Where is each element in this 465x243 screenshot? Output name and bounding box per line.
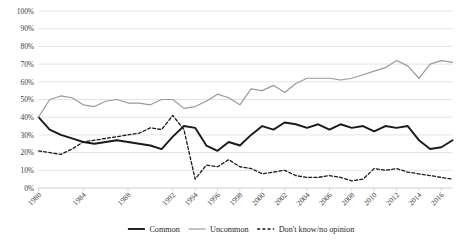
gridlines bbox=[39, 11, 453, 188]
legend-label: Uncommon bbox=[210, 225, 249, 234]
y-axis-tick-label: 50% bbox=[20, 95, 34, 104]
y-axis-tick-label: 40% bbox=[20, 113, 34, 122]
x-axis-tick-label: 2012 bbox=[384, 190, 401, 207]
x-axis-tick-label: 1992 bbox=[160, 190, 177, 207]
data-series bbox=[39, 61, 453, 181]
chart-canvas: 0%10%20%30%40%50%60%70%80%90%100% 198019… bbox=[0, 0, 465, 243]
x-axis-tick-label: 2002 bbox=[272, 190, 289, 207]
y-axis-tick-label: 20% bbox=[20, 148, 34, 157]
line-chart: 0%10%20%30%40%50%60%70%80%90%100% 198019… bbox=[0, 0, 465, 243]
x-axis-tick-label: 1988 bbox=[116, 190, 133, 207]
x-axis-tickmarks bbox=[39, 188, 442, 191]
x-axis-tick-label: 1980 bbox=[26, 190, 43, 207]
series-line bbox=[39, 61, 453, 118]
y-axis-tick-label: 100% bbox=[17, 7, 34, 16]
y-axis-tick-label: 0% bbox=[24, 184, 34, 193]
x-axis-tick-label: 1994 bbox=[183, 190, 200, 207]
series-line bbox=[39, 115, 453, 180]
y-axis-tick-label: 70% bbox=[20, 60, 34, 69]
x-axis-tick-label: 2008 bbox=[339, 190, 356, 207]
y-axis-tick-label: 30% bbox=[20, 131, 34, 140]
y-axis-tick-label: 10% bbox=[20, 166, 34, 175]
series-line bbox=[39, 117, 453, 151]
x-axis-tick-label: 2006 bbox=[317, 190, 334, 207]
y-axis-tick-label: 60% bbox=[20, 78, 34, 87]
y-axis-tick-label: 90% bbox=[20, 24, 34, 33]
x-axis-tick-label: 2004 bbox=[295, 190, 312, 207]
legend-label: Common bbox=[149, 225, 179, 234]
y-axis-tick-label: 80% bbox=[20, 42, 34, 51]
x-axis-tick-label: 2016 bbox=[429, 190, 446, 207]
x-axis-tick-label: 2010 bbox=[362, 190, 379, 207]
x-axis-tick-label: 2000 bbox=[250, 190, 267, 207]
x-axis-tick-label: 2014 bbox=[407, 190, 424, 207]
x-axis-tick-label: 1996 bbox=[205, 190, 222, 207]
chart-legend: CommonUncommonDon't know/no opinion bbox=[128, 225, 354, 234]
y-axis-tick-labels: 0%10%20%30%40%50%60%70%80%90%100% bbox=[17, 7, 34, 193]
x-axis-tick-label: 1984 bbox=[71, 190, 88, 207]
x-axis-tick-label: 1998 bbox=[228, 190, 245, 207]
legend-label: Don't know/no opinion bbox=[279, 225, 355, 234]
x-axis-tick-labels: 1980198419881992199419961998200020022004… bbox=[26, 190, 446, 207]
